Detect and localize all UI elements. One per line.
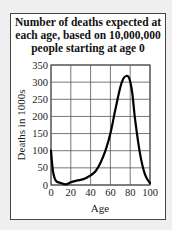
y-tick-label: 200	[32, 111, 48, 122]
y-tick-label: 250	[32, 94, 48, 105]
x-tick-label: 40	[85, 187, 96, 198]
y-tick-label: 300	[32, 77, 48, 88]
y-tick-label: 350	[32, 60, 48, 71]
y-axis-label: Deaths in 1000s	[15, 90, 27, 161]
chart-svg: 020406080100050100150200250300350 Age De…	[0, 0, 172, 230]
y-tick-label: 150	[32, 128, 48, 139]
x-tick-label: 0	[48, 187, 53, 198]
x-tick-label: 20	[66, 187, 77, 198]
x-axis-label: Age	[91, 202, 109, 214]
y-tick-label: 100	[32, 145, 48, 156]
y-tick-label: 50	[38, 162, 49, 173]
x-tick-label: 80	[125, 187, 136, 198]
y-tick-label: 0	[43, 180, 48, 191]
x-tick-label: 60	[105, 187, 116, 198]
x-tick-label: 100	[142, 187, 158, 198]
